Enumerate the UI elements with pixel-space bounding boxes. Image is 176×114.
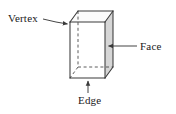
cube-faces <box>70 11 113 78</box>
edge-label: Edge <box>78 95 101 106</box>
face-label: Face <box>140 41 162 52</box>
vertex-leader-line <box>43 19 68 24</box>
vertex-label: Vertex <box>8 13 38 24</box>
cube-front-face <box>70 22 105 78</box>
cube-figure: Vertex Face Edge <box>0 0 176 114</box>
